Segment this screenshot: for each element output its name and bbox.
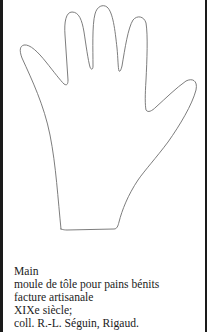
hand-mold-illustration [0,0,212,250]
caption-period: XIXe siècle; [14,304,204,317]
hand-outline-icon [0,0,212,250]
catalog-plate: Main moule de tôle pour pains bénits fac… [0,0,212,332]
caption-title: Main [14,265,204,278]
caption-collection: coll. R.-L. Séguin, Rigaud. [14,317,204,330]
object-caption: Main moule de tôle pour pains bénits fac… [14,265,204,330]
caption-description: moule de tôle pour pains bénits [14,278,204,291]
caption-craft: facture artisanale [14,291,204,304]
